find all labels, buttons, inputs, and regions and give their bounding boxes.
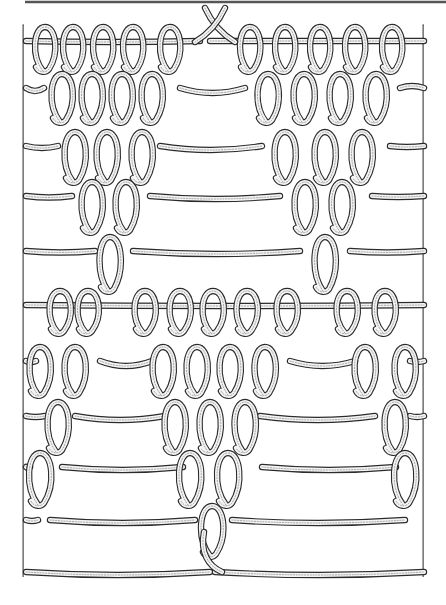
yarn-row-7: [290, 361, 355, 366]
stitch-loop: [112, 74, 133, 123]
stitch-loop: [65, 347, 86, 396]
yarn-row-5: [26, 251, 95, 253]
yarn-row-9: [62, 467, 183, 470]
stitch-loop: [385, 402, 406, 453]
yarn-row-8: [260, 416, 375, 420]
stitch-loop: [237, 291, 258, 334]
stitch-loop: [315, 237, 336, 292]
stitch-loop: [258, 74, 279, 123]
stitch-loop: [63, 27, 83, 72]
stitch-loop: [275, 27, 295, 72]
stitch-loop: [153, 347, 174, 396]
stitch-loop: [93, 27, 113, 72]
yarn-row-8: [26, 416, 45, 417]
yarn-row-3: [26, 146, 58, 148]
stitch-loop: [395, 347, 416, 396]
stitch-loop: [65, 132, 86, 183]
yarn-row-4: [26, 196, 72, 198]
yarn-row-8: [75, 416, 165, 420]
stitch-loop: [352, 132, 373, 183]
stitch-loop: [179, 453, 201, 506]
stitch-loop: [220, 347, 241, 396]
yarn-row-3: [160, 146, 262, 150]
stitch-loop: [116, 182, 137, 233]
stitch-loop: [235, 402, 256, 453]
stitch-loop: [35, 27, 55, 72]
stitch-loop: [394, 453, 416, 506]
yarn-row-2: [400, 86, 424, 88]
stitch-loop: [255, 347, 276, 396]
stitch-loop: [275, 132, 296, 183]
stitch-loop: [382, 27, 402, 72]
stitch-loop: [295, 182, 316, 233]
stitch-loop: [50, 291, 71, 334]
stitch-loops: [29, 27, 416, 557]
stitch-loop: [52, 74, 73, 123]
stitch-loop: [135, 291, 156, 334]
yarn-row-7: [100, 361, 152, 366]
yarn-row-3: [390, 146, 424, 147]
stitch-loop: [132, 132, 153, 183]
stitch-loop: [355, 347, 376, 396]
stitch-loop: [240, 27, 260, 72]
stitch-loop: [165, 402, 186, 453]
stitch-loop: [203, 291, 224, 334]
stitch-loop: [187, 347, 208, 396]
yarn-row-4: [150, 196, 280, 199]
stitch-loop: [366, 74, 387, 123]
yarn-row-2: [180, 88, 245, 93]
yarn-row-9: [262, 467, 396, 470]
left-selvage-border: [23, 25, 24, 577]
stitch-loop: [375, 291, 396, 334]
stitch-loop: [30, 347, 51, 396]
stitch-loop: [29, 453, 51, 506]
stitch-loop: [48, 402, 69, 453]
stitch-loop: [330, 74, 351, 123]
stitch-loop: [142, 74, 163, 123]
stitch-loop: [277, 291, 298, 334]
yarn-row-10: [26, 520, 38, 521]
stitch-loop: [100, 237, 121, 292]
yarn-row-11: [26, 572, 210, 575]
yarn-row-4: [372, 196, 424, 197]
yarn-row-11: [215, 572, 424, 575]
yarn-row-10: [50, 520, 195, 523]
stitch-loop: [82, 182, 103, 233]
stitch-loop: [345, 27, 365, 72]
stitch-loop: [294, 74, 315, 123]
stitch-loop: [78, 291, 99, 334]
yarn-row-2: [26, 88, 44, 91]
yarn-row-5: [350, 251, 424, 253]
yarn-row-8: [410, 416, 424, 417]
stitch-loop: [97, 132, 118, 183]
stitch-loop: [310, 27, 330, 72]
stitch-loop: [332, 182, 353, 233]
stitch-loop: [337, 291, 358, 334]
stitch-loop: [82, 74, 103, 123]
stitch-loop: [123, 27, 143, 72]
stitch-loop: [160, 27, 180, 72]
yarn-row-5: [133, 251, 300, 254]
yarn-row-10: [232, 520, 405, 523]
stitch-loop: [217, 453, 239, 506]
stitch-loop: [170, 291, 191, 334]
stitch-diagram: [0, 0, 446, 605]
right-selvage-border: [423, 25, 424, 577]
stitch-loop: [200, 402, 221, 453]
stitch-loop: [315, 132, 336, 183]
